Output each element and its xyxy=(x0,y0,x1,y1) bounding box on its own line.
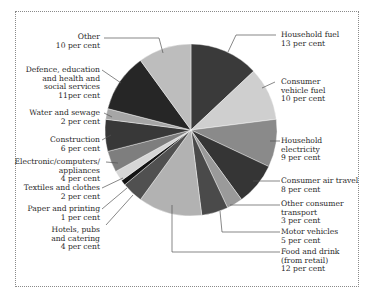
label-paper: Paper and printing 1 per cent xyxy=(28,205,100,222)
leader-other xyxy=(104,38,163,53)
label-construction: Construction 6 per cent xyxy=(50,136,100,153)
label-consumer-air-travel: Consumer air travel 8 per cent xyxy=(281,177,358,194)
label-household-fuel: Household fuel 13 per cent xyxy=(281,31,339,48)
leader-motor-vehicles xyxy=(220,211,280,232)
label-consumer-vehicle-fuel: Consumer vehicle fuel 10 per cent xyxy=(281,78,325,104)
label-textiles: Textiles and clothes 2 per cent xyxy=(24,184,100,201)
label-water: Water and sewage 2 per cent xyxy=(29,109,100,126)
label-household-electricity: Household electricity 9 per cent xyxy=(281,137,322,163)
label-other: Other 10 per cent xyxy=(56,33,100,50)
leader-defence xyxy=(102,70,121,83)
label-other-consumer-transport: Other consumer transport 3 per cent xyxy=(281,200,344,226)
leader-textiles xyxy=(102,178,123,188)
label-defence: Defence, education and health and social… xyxy=(26,66,100,100)
pie-slices xyxy=(105,44,277,216)
label-food-and-drink: Food and drink (from retail) 12 per cent xyxy=(281,248,339,274)
label-electronic: Electronic/computers/ appliances 4 per c… xyxy=(14,158,100,184)
label-motor-vehicles: Motor vehicles 5 per cent xyxy=(281,228,338,245)
leader-household-fuel xyxy=(228,35,276,52)
leader-hotels xyxy=(106,195,133,225)
label-hotels: Hotels, pubs and catering 4 per cent xyxy=(51,226,100,252)
